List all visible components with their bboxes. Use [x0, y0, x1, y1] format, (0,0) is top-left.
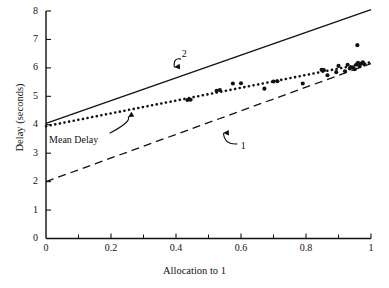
x-axis-title: Allocation to 1 — [0, 266, 389, 277]
x-tick-marks — [111, 234, 371, 239]
data-point — [262, 87, 266, 91]
data-point — [231, 81, 235, 85]
data-point — [275, 79, 279, 83]
annotation-arrow-2 — [174, 59, 181, 67]
x-tick-label: 0.4 — [156, 243, 196, 253]
data-point — [322, 68, 326, 72]
data-point — [362, 62, 366, 66]
data-point — [334, 70, 338, 74]
y-tick-label: 0 — [0, 233, 38, 243]
annotation-label-mean-delay: Mean Delay — [42, 135, 106, 145]
figure: 01234567800.20.40.60.81 Allocation to 1 … — [0, 0, 389, 288]
y-tick-label: 7 — [0, 34, 38, 44]
data-point — [346, 63, 350, 67]
data-point — [353, 67, 357, 71]
annotation-label-1: 1 — [211, 141, 275, 151]
data-point — [355, 43, 359, 47]
data-point — [301, 81, 305, 85]
data-point — [239, 81, 243, 85]
data-point — [218, 88, 222, 92]
annotation-arrows — [110, 59, 238, 144]
x-tick-label: 0.8 — [286, 243, 326, 253]
x-tick-label: 0.2 — [91, 243, 131, 253]
y-axis-title: Delay (seconds) — [14, 63, 25, 173]
y-tick-label: 1 — [0, 205, 38, 215]
x-tick-label: 0 — [26, 243, 66, 253]
x-tick-label: 0.6 — [221, 243, 261, 253]
data-point — [189, 98, 193, 102]
annotation-label-2: 2 — [152, 49, 216, 59]
y-tick-label: 2 — [0, 176, 38, 186]
x-tick-label: 1 — [351, 243, 389, 253]
data-point — [343, 69, 347, 73]
data-point — [325, 73, 329, 77]
series-line-1 — [46, 64, 371, 182]
series-line-2 — [46, 10, 371, 124]
series-lines — [46, 10, 371, 182]
data-point — [271, 79, 275, 83]
axes — [46, 11, 371, 239]
annotation-arrow-mean-delay — [110, 117, 129, 133]
data-point — [336, 64, 340, 68]
y-tick-label: 8 — [0, 6, 38, 16]
